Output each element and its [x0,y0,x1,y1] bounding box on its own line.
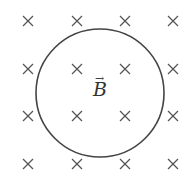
vector-arrow-icon: → [95,73,104,84]
cross-icon [168,159,178,169]
field-label-b: → B [93,80,107,99]
cross-icon [72,159,82,169]
cross-icon [23,16,33,26]
cross-icon [23,159,33,169]
cross-icon [168,111,178,121]
magnetic-field-diagram: → B [0,0,190,186]
cross-icon [72,111,82,121]
cross-icon [168,16,178,26]
cross-icon [120,16,130,26]
cross-icon [168,64,178,74]
cross-icon [120,111,130,121]
cross-icon [23,64,33,74]
cross-icon [120,64,130,74]
cross-icon [72,16,82,26]
cross-icon [72,64,82,74]
cross-icon [23,111,33,121]
cross-icon [120,159,130,169]
